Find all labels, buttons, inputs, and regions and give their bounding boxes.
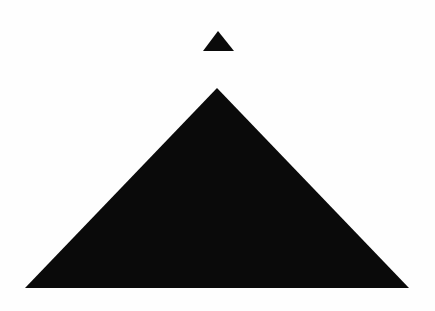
triangles-figure — [0, 0, 435, 311]
image-canvas — [0, 0, 435, 311]
